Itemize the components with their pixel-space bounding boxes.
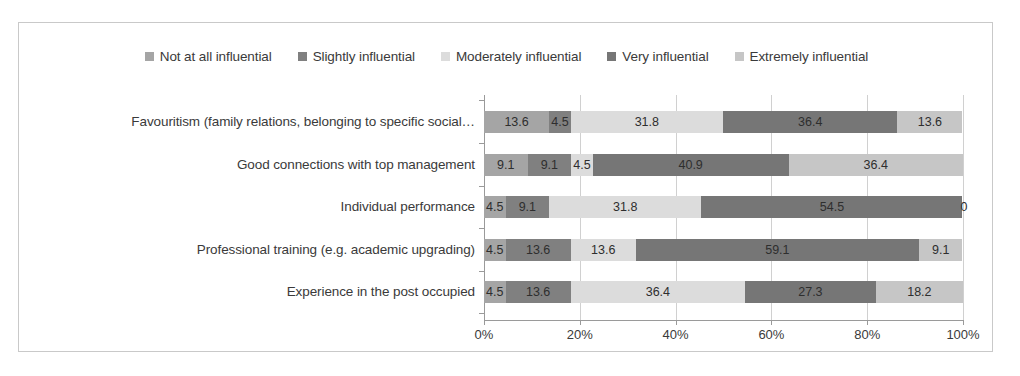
- value-axis-tick: [963, 320, 964, 325]
- gridline-100: [963, 95, 964, 320]
- value-axis-label: 20%: [567, 327, 593, 342]
- value-axis-label: 0%: [475, 327, 494, 342]
- legend-label: Slightly influential: [313, 49, 415, 64]
- bar-segment[interactable]: 9.1: [484, 154, 528, 176]
- bar-row[interactable]: 4.513.613.659.19.1: [484, 239, 963, 261]
- category-label: Professional training (e.g. academic upg…: [197, 239, 475, 261]
- value-axis-label: 100%: [946, 327, 979, 342]
- bar-value-label: 13.6: [526, 244, 550, 257]
- legend-label: Not at all influential: [160, 49, 272, 64]
- category-label: Experience in the post occupied: [287, 281, 475, 303]
- stacked-bars: 13.64.531.836.413.69.19.14.540.936.44.59…: [484, 95, 963, 320]
- value-axis-label: 40%: [663, 327, 689, 342]
- legend-item-3[interactable]: Very influential: [607, 49, 708, 64]
- bar-value-label: 13.6: [918, 116, 942, 129]
- bar-value-label: 31.8: [613, 201, 637, 214]
- bar-segment[interactable]: 13.6: [897, 111, 962, 133]
- bar-value-label: 27.3: [798, 286, 822, 299]
- value-axis-label: 80%: [854, 327, 880, 342]
- bar-segment[interactable]: 36.4: [571, 281, 745, 303]
- bar-value-label: 9.1: [541, 159, 558, 172]
- category-label: Individual performance: [341, 196, 475, 218]
- value-axis-tick: [580, 320, 581, 325]
- bar-segment[interactable]: 13.6: [506, 281, 571, 303]
- bar-segment[interactable]: 59.1: [636, 239, 919, 261]
- bar-segment[interactable]: 4.5: [484, 281, 506, 303]
- value-axis-tick: [676, 320, 677, 325]
- bar-row[interactable]: 9.19.14.540.936.4: [484, 154, 963, 176]
- bar-value-label: 36.4: [798, 116, 822, 129]
- bar-segment[interactable]: 13.6: [484, 111, 549, 133]
- bar-segment[interactable]: 9.1: [919, 239, 963, 261]
- chart-screenshot: Not at all influentialSlightly influenti…: [0, 0, 1020, 376]
- legend-item-1[interactable]: Slightly influential: [298, 49, 415, 64]
- bar-segment[interactable]: 36.4: [789, 154, 963, 176]
- value-axis-label: 60%: [758, 327, 784, 342]
- bar-value-label: 4.5: [486, 286, 503, 299]
- bar-segment[interactable]: 4.5: [549, 111, 571, 133]
- plot-area: 13.64.531.836.413.69.19.14.540.936.44.59…: [484, 95, 963, 320]
- legend-label: Very influential: [622, 49, 708, 64]
- category-label: Favouritism (family relations, belonging…: [131, 111, 475, 133]
- legend-label: Moderately influential: [456, 49, 581, 64]
- legend-item-2[interactable]: Moderately influential: [441, 49, 581, 64]
- bar-segment[interactable]: 4.5: [484, 239, 506, 261]
- bar-value-label: 13.6: [591, 244, 615, 257]
- category-label: Good connections with top management: [237, 154, 475, 176]
- value-axis-line: [484, 320, 963, 321]
- legend-swatch-icon: [607, 52, 616, 61]
- category-axis-labels: Favouritism (family relations, belonging…: [19, 95, 481, 320]
- bar-segment[interactable]: 31.8: [571, 111, 723, 133]
- bar-segment[interactable]: 9.1: [528, 154, 572, 176]
- bar-value-label: 40.9: [678, 159, 702, 172]
- bar-value-label: 59.1: [765, 244, 789, 257]
- bar-value-label: 4.5: [551, 116, 568, 129]
- value-axis-tick: [484, 320, 485, 325]
- legend-swatch-icon: [298, 52, 307, 61]
- bar-value-label: 13.6: [504, 116, 528, 129]
- bar-value-label: 4.5: [486, 201, 503, 214]
- legend-item-0[interactable]: Not at all influential: [145, 49, 272, 64]
- bar-segment[interactable]: 13.6: [506, 239, 571, 261]
- bar-row[interactable]: 4.513.636.427.318.2: [484, 281, 963, 303]
- chart-frame: Not at all influentialSlightly influenti…: [18, 22, 993, 352]
- bar-segment[interactable]: 54.5: [701, 196, 962, 218]
- bar-segment[interactable]: 9.1: [506, 196, 550, 218]
- bar-segment[interactable]: 18.2: [876, 281, 963, 303]
- bar-value-label: 31.8: [635, 116, 659, 129]
- value-axis-tick: [771, 320, 772, 325]
- legend-swatch-icon: [735, 52, 744, 61]
- bar-value-label: 13.6: [526, 286, 550, 299]
- chart-legend: Not at all influentialSlightly influenti…: [19, 49, 994, 64]
- bar-value-label: 4.5: [573, 159, 590, 172]
- bar-segment[interactable]: 4.5: [571, 154, 593, 176]
- value-axis-tick: [867, 320, 868, 325]
- bar-value-label: 4.5: [486, 244, 503, 257]
- bar-value-label: 9.1: [497, 159, 514, 172]
- bar-value-label: 54.5: [820, 201, 844, 214]
- bar-segment[interactable]: 31.8: [549, 196, 701, 218]
- bar-row[interactable]: 4.59.131.854.50: [484, 196, 963, 218]
- bar-value-label: 36.4: [864, 159, 888, 172]
- legend-swatch-icon: [145, 52, 154, 61]
- bar-value-label: 18.2: [907, 286, 931, 299]
- legend-swatch-icon: [441, 52, 450, 61]
- legend-item-4[interactable]: Extremely influential: [735, 49, 869, 64]
- bar-value-label: 36.4: [646, 286, 670, 299]
- bar-value-label: 9.1: [932, 244, 949, 257]
- bar-row[interactable]: 13.64.531.836.413.6: [484, 111, 963, 133]
- bar-segment[interactable]: 4.5: [484, 196, 506, 218]
- bar-segment[interactable]: 13.6: [571, 239, 636, 261]
- bar-segment[interactable]: 40.9: [593, 154, 789, 176]
- legend-label: Extremely influential: [750, 49, 869, 64]
- bar-segment[interactable]: 27.3: [745, 281, 876, 303]
- bar-value-label: 9.1: [519, 201, 536, 214]
- bar-segment[interactable]: 36.4: [723, 111, 897, 133]
